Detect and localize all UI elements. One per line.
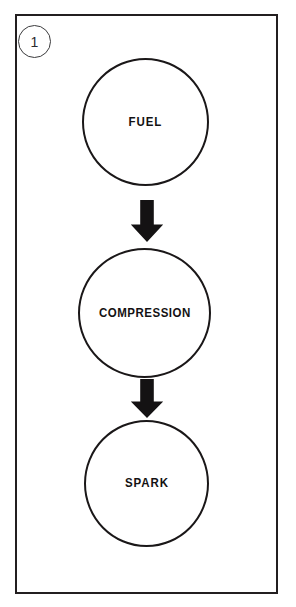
flow-node-spark-label: SPARK: [124, 477, 168, 490]
flow-node-compression-label: COMPRESSION: [99, 307, 191, 320]
flow-node-fuel: FUEL: [82, 58, 209, 186]
flow-node-fuel-label: FUEL: [129, 116, 163, 129]
arrow-down-icon: [130, 379, 164, 418]
arrow-down-icon: [130, 200, 164, 242]
flow-node-compression: COMPRESSION: [78, 248, 211, 378]
flow-diagram: FUEL COMPRESSION SPARK: [0, 0, 296, 607]
flow-node-spark: SPARK: [84, 420, 209, 547]
